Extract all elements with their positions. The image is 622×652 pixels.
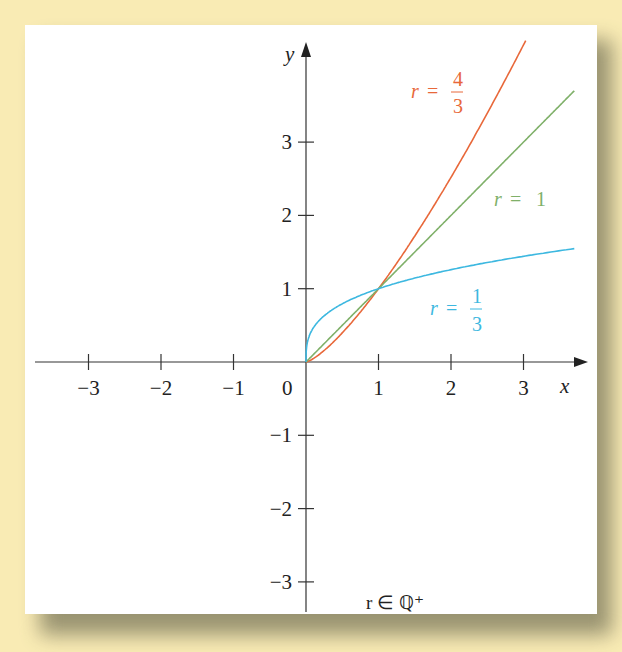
- label-r-one: r = 1: [494, 188, 546, 210]
- label-r-four-thirds: r = 4 3: [411, 68, 463, 117]
- svg-text:1: 1: [472, 285, 482, 307]
- y-tick-label: 2: [282, 203, 293, 227]
- svg-text:=: =: [427, 80, 438, 102]
- svg-text:=: =: [510, 188, 521, 210]
- curves: [306, 41, 574, 362]
- origin-label: 0: [282, 376, 293, 400]
- svg-text:=: =: [446, 297, 457, 319]
- x-axis-arrow-icon: [574, 357, 588, 367]
- y-tick-label: −1: [270, 423, 292, 447]
- y-axis-label: y: [283, 42, 295, 66]
- x-tick-label: −1: [222, 376, 244, 400]
- chart-svg: −3−2−1123 321−1−2−3 x y 0 r = 4 3 r = 1 …: [0, 0, 622, 652]
- rational-set-note: r ∈ ℚ⁺: [366, 592, 424, 613]
- x-tick-label: 1: [373, 376, 384, 400]
- curve-r-1: [306, 91, 574, 362]
- x-tick-label: −3: [77, 376, 99, 400]
- y-axis-arrow-icon: [301, 42, 311, 57]
- y-tick-label: 1: [282, 277, 293, 301]
- y-tick-label: −3: [270, 570, 292, 594]
- svg-text:r: r: [494, 188, 502, 210]
- y-tick-label: −2: [270, 497, 292, 521]
- x-ticks: −3−2−1123: [77, 354, 528, 400]
- label-r-one-third: r = 1 3: [430, 285, 482, 335]
- x-tick-label: −2: [150, 376, 172, 400]
- svg-text:3: 3: [472, 313, 482, 335]
- x-tick-label: 2: [446, 376, 457, 400]
- x-tick-label: 3: [518, 376, 529, 400]
- svg-text:1: 1: [536, 188, 546, 210]
- y-tick-label: 3: [282, 130, 293, 154]
- svg-text:4: 4: [453, 68, 463, 90]
- curve-r-1-3: [306, 249, 574, 362]
- x-axis-label: x: [559, 374, 570, 398]
- svg-text:3: 3: [453, 95, 463, 117]
- svg-text:r: r: [430, 297, 438, 319]
- svg-text:r: r: [411, 80, 419, 102]
